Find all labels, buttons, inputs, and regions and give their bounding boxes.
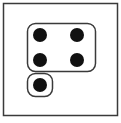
dot — [33, 28, 47, 42]
outer-frame — [4, 4, 118, 116]
dot — [70, 28, 84, 42]
group-of-one — [28, 74, 53, 97]
dot-group-diagram — [0, 0, 121, 123]
dot — [70, 53, 84, 67]
dot — [33, 53, 47, 67]
dot — [33, 78, 47, 92]
group-of-four — [28, 24, 96, 72]
